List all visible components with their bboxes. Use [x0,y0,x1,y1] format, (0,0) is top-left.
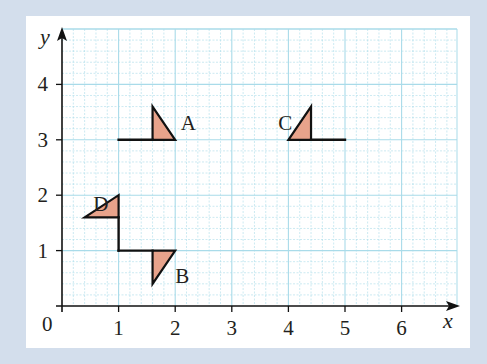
shape-c: C [278,107,345,140]
x-axis-label: x [442,308,453,333]
coordinate-grid: ABCD x y 0 1234561234 [0,0,487,364]
shapes: ABCD [85,107,345,288]
y-tick-label: 4 [38,72,49,96]
triangle [153,107,176,140]
shape-a: A [119,107,197,140]
shape-label: C [278,111,292,135]
shape-label: D [93,192,108,216]
x-tick-label: 1 [113,316,124,340]
x-tick-label: 3 [227,316,238,340]
shape-d: D [85,192,119,251]
x-tick-label: 6 [396,316,407,340]
y-tick-label: 1 [38,239,49,263]
major-gridlines [62,29,457,306]
shape-b: B [119,251,190,288]
x-tick-label: 2 [170,316,181,340]
y-tick-label: 3 [38,128,49,152]
minor-gridlines [62,29,457,306]
y-axis-label: y [38,24,50,49]
axes: x y 0 [38,24,460,336]
y-tick-label: 2 [38,183,49,207]
x-tick-label: 5 [340,316,351,340]
shape-label: A [181,111,197,135]
x-tick-label: 4 [283,316,294,340]
shape-label: B [175,264,189,288]
origin-label: 0 [42,312,53,336]
